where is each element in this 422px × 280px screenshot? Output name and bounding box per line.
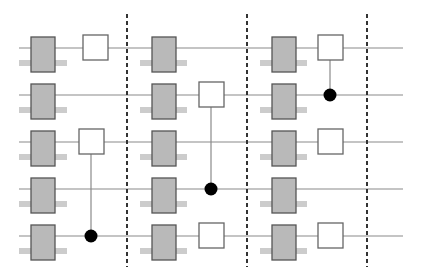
gate-box-6 [318, 223, 343, 248]
control-dot-1 [205, 183, 218, 196]
gate-box-2 [199, 82, 224, 107]
gate-box-4 [318, 35, 343, 60]
layer-box-1-0 [152, 37, 176, 72]
gate-box-0 [83, 35, 108, 60]
gate-box-1 [79, 129, 104, 154]
layer-box-2-0 [272, 37, 296, 72]
layer-box-0-1 [31, 84, 55, 119]
layer-box-0-2 [31, 131, 55, 166]
layer-box-0-4 [31, 225, 55, 260]
layer-box-0-3 [31, 178, 55, 213]
layer-box-2-1 [272, 84, 296, 119]
layer-box-1-2 [152, 131, 176, 166]
control-dot-0 [85, 230, 98, 243]
layer-boxes-group [31, 37, 296, 260]
layer-box-2-3 [272, 178, 296, 213]
layer-box-1-4 [152, 225, 176, 260]
gate-box-5 [318, 129, 343, 154]
gate-box-3 [199, 223, 224, 248]
layer-box-2-2 [272, 131, 296, 166]
layer-box-1-3 [152, 178, 176, 213]
control-dot-2 [324, 89, 337, 102]
layer-box-1-1 [152, 84, 176, 119]
layer-box-0-0 [31, 37, 55, 72]
circuit-diagram [0, 0, 422, 280]
layer-box-2-4 [272, 225, 296, 260]
